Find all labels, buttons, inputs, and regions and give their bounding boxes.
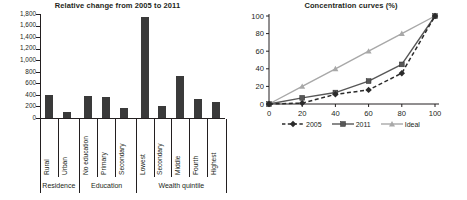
line-x-tick-label: 100 (429, 109, 442, 118)
marker-square (300, 95, 305, 100)
bar-group-label: Wealth quintile (158, 182, 204, 189)
bar-y-tick-label: 600 (2, 80, 36, 86)
bar (158, 106, 166, 118)
bar-y-tick-label: 0 (2, 115, 36, 121)
line-y-tick-label: 100 (251, 12, 264, 21)
legend-swatch-2011 (332, 119, 354, 129)
bar (45, 95, 53, 118)
line-y-tick-label: 60 (256, 47, 264, 56)
legend-item-2005[interactable]: 2005 (282, 119, 322, 129)
bar (194, 99, 202, 118)
bar-y-tick-label: 800 (2, 69, 36, 75)
bar-category-cell: Urban (58, 119, 77, 177)
bar (84, 96, 92, 118)
marker-triangle (399, 31, 405, 36)
bar-y-tick-label: 1,800 (2, 11, 36, 17)
bar-group-label: Residence (42, 182, 75, 189)
line-chart-panel: Concentration curves (%) 020406080100020… (235, 0, 467, 200)
bar-category-cell: No education (79, 119, 98, 177)
bar (176, 76, 184, 118)
bar-category-cell: Middle (171, 119, 190, 177)
legend-item-Ideal[interactable]: Ideal (381, 119, 420, 129)
line-y-tick-label: 0 (260, 100, 264, 109)
bar-chart-panel: Relative change from 2005 to 2011 020040… (0, 0, 235, 200)
legend-item-2011[interactable]: 2011 (332, 119, 371, 129)
legend-swatch-Ideal (381, 119, 403, 129)
marker-triangle (332, 66, 338, 71)
line-x-tick-label: 40 (331, 109, 339, 118)
bar-y-tick-label: 200 (2, 103, 36, 109)
line-y-tick-label: 20 (256, 82, 264, 91)
line-y-tick-label: 40 (256, 64, 264, 73)
bar (102, 97, 110, 118)
line-chart-legend: 20052011Ideal (235, 119, 467, 129)
line-x-tick-label: 60 (364, 109, 372, 118)
bar-group-cell: Education (79, 177, 134, 193)
bar-y-axis-line (40, 14, 41, 119)
bar-category-label: Fourth (192, 156, 199, 175)
bar (63, 112, 71, 118)
bar-category-label: Urban (61, 157, 68, 175)
marker-diamond (365, 87, 371, 93)
legend-label-Ideal: Ideal (405, 121, 420, 128)
bar-y-tick-label: 1,400 (2, 34, 36, 40)
bar (212, 102, 220, 118)
marker-diamond (399, 70, 405, 76)
legend-label-2011: 2011 (356, 121, 371, 128)
marker-square (366, 79, 371, 84)
line-x-tick-label: 0 (267, 109, 271, 118)
bar-category-cell: Secondary (154, 119, 173, 177)
bar-category-cell: Primary (97, 119, 116, 177)
bar-y-axis-labels: 02004006008001,0001,2001,4001,6001,800 (0, 0, 36, 200)
bar-y-tick-label: 1,600 (2, 22, 36, 28)
bar-category-label: Middle (174, 156, 181, 175)
bar-category-label: Secondary (118, 143, 125, 175)
bar-category-cell: Secondary (115, 119, 134, 177)
concentration-curves-plot: 020406080100020406080100 (235, 0, 467, 125)
line-x-tick-label: 20 (298, 109, 306, 118)
bar-category-label: Primary (100, 152, 107, 175)
bar-y-tick-label: 400 (2, 92, 36, 98)
bar-category-cell: Lowest (136, 119, 155, 177)
bar-category-label: Lowest (139, 154, 146, 175)
bar (141, 17, 149, 118)
bar-category-label: Rural (43, 159, 50, 175)
bar-category-cell: Fourth (189, 119, 208, 177)
marker-diamond (299, 100, 305, 106)
bar-category-cell: Highest (207, 119, 227, 177)
marker-triangle (299, 83, 305, 88)
marker-square (399, 62, 404, 67)
marker-triangle (366, 48, 372, 53)
bar-category-cell: Rural (40, 119, 59, 177)
legend-swatch-2005 (282, 119, 304, 129)
bar-y-tick-label: 1,200 (2, 45, 36, 51)
figure-root: Relative change from 2005 to 2011 020040… (0, 0, 467, 200)
bar-group-cell: Residence (40, 177, 77, 193)
bar-group-labels: ResidenceEducationWealth quintile (40, 177, 225, 193)
bar-group-label: Education (91, 182, 122, 189)
bar-group-cell: Wealth quintile (136, 177, 227, 193)
bar-y-tick-label: 1,000 (2, 57, 36, 63)
bar-category-label: Highest (210, 153, 217, 175)
line-x-tick-label: 80 (398, 109, 406, 118)
bar-category-labels: RuralUrbanNo educationPrimarySecondaryLo… (40, 119, 225, 177)
legend-label-2005: 2005 (306, 121, 322, 128)
line-y-tick-label: 80 (256, 29, 264, 38)
bar-category-label: Secondary (156, 143, 163, 175)
bar-category-label: No education (82, 136, 89, 175)
bar (120, 108, 128, 118)
